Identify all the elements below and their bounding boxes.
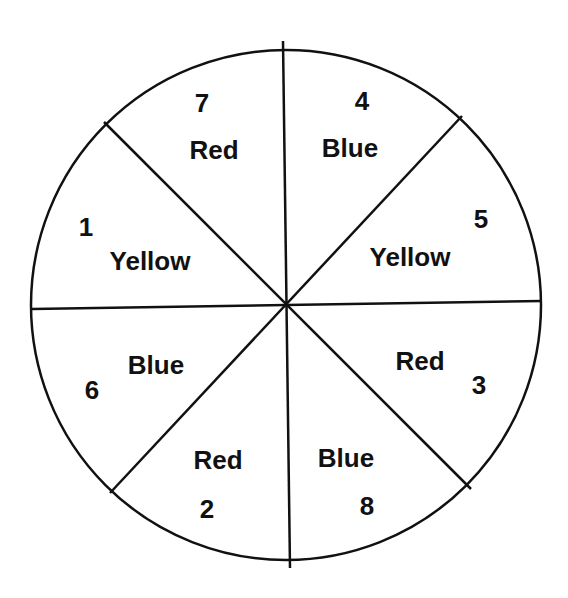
section-number: 1 (79, 212, 93, 242)
section-color: Red (193, 445, 242, 475)
section-number: 5 (474, 204, 488, 234)
section-color: Blue (322, 133, 378, 163)
spinner-diagram: 7 Red 4 Blue 5 Yellow Red 3 Blue 8 Red 2… (0, 0, 568, 598)
section-number: 3 (472, 370, 486, 400)
section-color: Red (189, 135, 238, 165)
section-number: 6 (85, 375, 99, 405)
section-color: Red (395, 346, 444, 376)
section-number: 4 (355, 86, 370, 116)
section-number: 7 (195, 88, 209, 118)
section-color: Blue (128, 350, 184, 380)
section-number: 8 (360, 491, 374, 521)
section-number: 2 (200, 494, 214, 524)
section-color: Blue (318, 443, 374, 473)
section-color: Yellow (110, 246, 192, 276)
section-color: Yellow (370, 242, 452, 272)
